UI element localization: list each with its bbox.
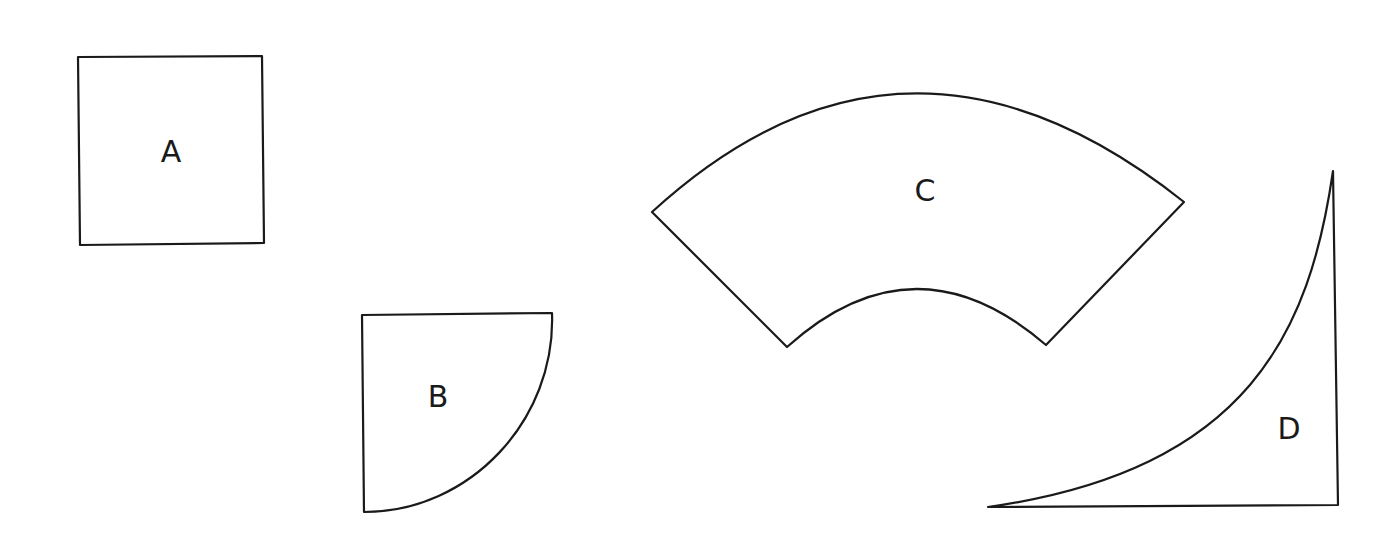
shape-c-label: C (915, 173, 936, 208)
shape-b: B (362, 313, 552, 512)
shape-d-label: D (1277, 411, 1300, 446)
shape-b-label: B (428, 379, 449, 414)
shape-b-outline (362, 313, 552, 512)
shape-a: A (78, 56, 264, 245)
shape-c-outline (652, 93, 1184, 347)
diagram-canvas: A B C D (0, 0, 1400, 536)
shape-a-label: A (161, 134, 182, 169)
shape-c: C (652, 93, 1184, 347)
